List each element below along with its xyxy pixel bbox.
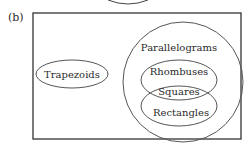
squares-label: Squares [158,86,199,97]
rectangles-label: Rectangles [153,107,209,118]
previous-panel-ellipse-fragment [108,0,148,4]
trapezoids-label: Trapezoids [44,69,100,80]
parallelograms-label: Parallelograms [141,42,217,53]
venn-diagram: (b) Trapezoids Parallelograms Rhombuses … [0,0,248,147]
panel-label: (b) [8,11,24,24]
rhombuses-label: Rhombuses [150,66,209,77]
